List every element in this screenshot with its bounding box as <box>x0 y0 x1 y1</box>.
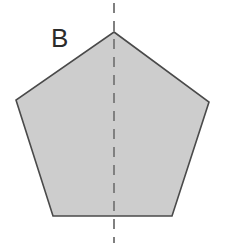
shape-label-b: B <box>51 25 68 51</box>
pentagon-diagram <box>0 0 230 248</box>
figure-canvas: B <box>0 0 230 248</box>
